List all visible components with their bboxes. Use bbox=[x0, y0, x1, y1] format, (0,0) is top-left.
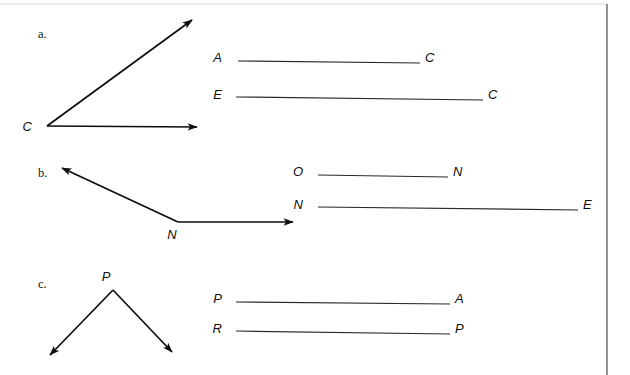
item-b: b. N O N N E bbox=[38, 164, 592, 242]
item-b-segment-o-n: O N bbox=[293, 164, 463, 179]
item-c-segment-p-a: P A bbox=[213, 291, 463, 306]
item-b-segment-1-right-label: N bbox=[453, 164, 463, 179]
item-b-segment-2-right-label: E bbox=[583, 197, 592, 212]
item-c-ray-lower-left bbox=[50, 290, 113, 355]
item-b-letter: b. bbox=[38, 166, 47, 180]
item-c-segment-1-left-label: P bbox=[213, 291, 222, 306]
item-a-ray-upper-right bbox=[47, 20, 192, 126]
item-c-segment-2-left-label: R bbox=[213, 321, 222, 336]
item-a-ray-horizontal-right bbox=[47, 126, 197, 127]
item-b-segment-2-left-label: N bbox=[294, 197, 304, 212]
item-a-angle: C bbox=[23, 20, 197, 134]
item-a-vertex-label: C bbox=[23, 119, 33, 134]
geometry-figure-canvas: a. C A C E C b. N bbox=[0, 0, 630, 375]
item-a-segment-e-c: E C bbox=[213, 87, 498, 102]
item-c-segment-1-line bbox=[236, 302, 450, 304]
item-a-segment-a-c: A C bbox=[212, 50, 435, 65]
item-b-segment-1-left-label: O bbox=[293, 164, 303, 179]
item-c-ray-lower-right bbox=[113, 290, 172, 352]
worksheet-page: a. C A C E C b. N bbox=[0, 0, 630, 375]
item-c-segment-r-p: R P bbox=[213, 321, 464, 336]
item-a: a. C A C E C bbox=[23, 20, 498, 134]
item-b-angle: N bbox=[62, 168, 293, 242]
item-a-segment-2-line bbox=[236, 97, 483, 100]
item-a-segment-2-right-label: C bbox=[488, 87, 498, 102]
item-a-segment-1-right-label: C bbox=[425, 50, 435, 65]
item-c-segment-1-right-label: A bbox=[454, 291, 464, 306]
item-a-segment-1-line bbox=[238, 61, 420, 63]
item-a-segment-2-left-label: E bbox=[213, 87, 222, 102]
item-b-segment-1-line bbox=[318, 175, 448, 177]
item-b-segment-2-line bbox=[318, 207, 578, 210]
item-a-letter: a. bbox=[38, 27, 47, 41]
item-c-segment-2-right-label: P bbox=[455, 321, 464, 336]
item-c-letter: c. bbox=[38, 277, 47, 291]
page-frame bbox=[0, 4, 607, 375]
item-a-segment-1-left-label: A bbox=[212, 50, 222, 65]
item-b-vertex-label: N bbox=[167, 227, 177, 242]
item-c-angle: P bbox=[50, 269, 172, 355]
item-c-segment-2-line bbox=[236, 331, 450, 334]
item-b-segment-n-e: N E bbox=[294, 197, 592, 212]
item-c-vertex-label: P bbox=[102, 269, 111, 284]
item-c: c. P P A R P bbox=[38, 269, 464, 355]
item-b-ray-upper-left bbox=[62, 168, 178, 222]
